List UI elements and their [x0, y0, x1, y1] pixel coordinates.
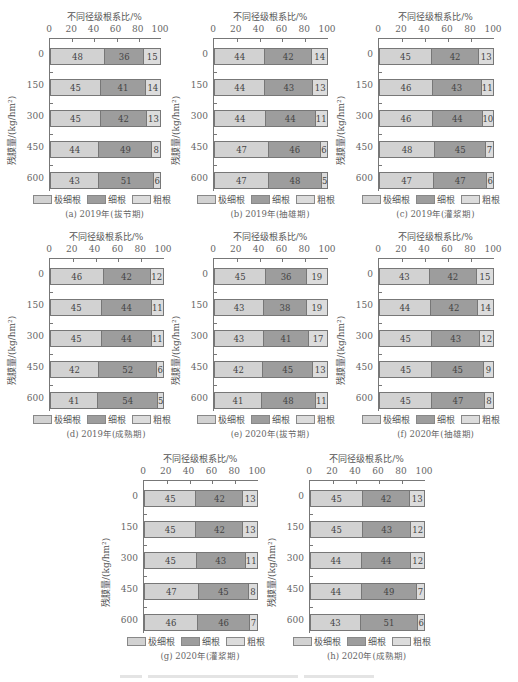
legend-swatch-fine [87, 195, 106, 204]
bar-segment-coarse: 5 [157, 393, 163, 408]
bar-segment-coarse: 13 [146, 111, 160, 126]
bar-segment-coarse: 12 [150, 269, 163, 284]
y-category-label: 300 [347, 331, 373, 341]
bar-segment-fine: 49 [361, 584, 416, 599]
legend-swatch-fine [181, 637, 200, 646]
y-category-label: 600 [347, 173, 373, 183]
bar-segment-ultrafine: 47 [215, 173, 268, 188]
y-tick-mark [379, 385, 382, 386]
bar-segment-fine: 51 [360, 615, 418, 630]
y-tick-mark [310, 545, 313, 546]
x-tick-mark [402, 259, 403, 262]
plot-area: 4642124544114544114252641545 [49, 258, 164, 411]
y-category-label: 150 [112, 522, 138, 532]
panel-caption: (h) 2020年(成熟期) [279, 649, 454, 661]
x-axis-title: 不同径级根系比/% [203, 10, 337, 23]
legend-swatch-coarse [392, 637, 411, 646]
y-axis-title: 残膜量/(kg/hm²) [5, 96, 18, 165]
x-tick-label: 80 [464, 24, 475, 34]
y-category-label: 450 [347, 362, 373, 372]
stacked-bar: 45459 [379, 361, 494, 378]
bar-segment-ultrafine: 44 [215, 111, 265, 126]
bar-segment-ultrafine: 46 [380, 80, 432, 95]
bar-segment-ultrafine: 44 [215, 49, 264, 64]
stacked-bar: 414811 [214, 392, 328, 409]
stacked-bar: 46467 [144, 614, 258, 631]
y-category-label: 0 [112, 491, 138, 501]
x-tick-mark [282, 259, 283, 262]
bar-segment-fine: 48 [261, 393, 315, 408]
x-tick-label: 40 [183, 466, 194, 476]
legend-label-fine: 细根 [368, 635, 386, 648]
x-tick-mark [471, 39, 472, 42]
x-axis-title: 不同径级根系比/% [39, 230, 173, 243]
bar-segment-fine: 42 [431, 49, 478, 64]
legend-label-fine: 细根 [272, 413, 290, 426]
y-category-label: 600 [18, 173, 44, 183]
y-tick-mark [50, 385, 53, 386]
x-tick-label: 0 [306, 466, 312, 476]
panel-caption: (e) 2020年(拔节期) [183, 427, 357, 439]
x-tick-label: 100 [484, 244, 501, 254]
y-tick-mark [50, 72, 53, 73]
legend-label-coarse: 粗根 [482, 193, 500, 206]
y-category-label: 150 [182, 80, 208, 90]
legend-swatch-fine [251, 195, 270, 204]
bar-segment-fine: 43 [264, 80, 312, 95]
bar-segment-coarse: 8 [151, 142, 160, 157]
stacked-bar: 47476 [379, 172, 494, 189]
y-category-label: 300 [18, 331, 44, 341]
bar-segment-fine: 44 [101, 300, 150, 315]
y-tick-mark [50, 292, 53, 293]
bar-segment-ultrafine: 46 [145, 615, 197, 630]
bar-segment-fine: 42 [430, 300, 477, 315]
bar-segment-fine: 54 [97, 393, 157, 408]
bar-segment-ultrafine: 42 [215, 362, 262, 377]
figure-caption-faint [120, 663, 410, 667]
stacked-bar: 44497 [310, 583, 425, 600]
y-tick-mark [50, 165, 53, 166]
stacked-bar: 433819 [214, 299, 328, 316]
x-tick-mark [139, 39, 140, 42]
bar-segment-ultrafine: 41 [51, 393, 97, 408]
x-tick-mark [237, 259, 238, 262]
y-tick-mark [144, 576, 147, 577]
x-tick-label: 60 [441, 24, 452, 34]
y-category-label: 450 [18, 142, 44, 152]
y-category-label: 300 [278, 553, 304, 563]
legend-label-fine: 细根 [108, 413, 126, 426]
legend-swatch-coarse [226, 637, 245, 646]
y-tick-mark [379, 72, 382, 73]
y-tick-mark [379, 134, 382, 135]
x-tick-mark [72, 39, 73, 42]
x-axis-title: 不同径级根系比/% [203, 230, 337, 243]
x-tick-label: 60 [372, 466, 383, 476]
y-tick-mark [310, 576, 313, 577]
x-tick-label: 100 [151, 24, 168, 34]
y-tick-mark [50, 354, 53, 355]
plot-area: 4442144443134444114746647485 [213, 38, 328, 191]
legend-label-ultrafine: 极细根 [218, 413, 245, 426]
legend: 极细根细根粗根 [191, 413, 335, 426]
y-tick-mark [214, 323, 217, 324]
bar-segment-fine: 44 [432, 111, 482, 126]
bar-segment-ultrafine: 45 [51, 300, 101, 315]
legend: 极细根细根粗根 [27, 193, 171, 206]
bar-segment-ultrafine: 44 [311, 584, 361, 599]
x-tick-label: 60 [110, 24, 121, 34]
x-tick-mark [212, 481, 213, 484]
legend-swatch-coarse [296, 195, 315, 204]
y-tick-mark [310, 514, 313, 515]
x-axis-ticks: 020406080100 [49, 244, 163, 256]
stacked-bar: 454213 [50, 110, 161, 127]
bar-segment-fine: 43 [431, 331, 480, 346]
legend-swatch-ultrafine [362, 415, 381, 424]
stacked-bar: 444214 [379, 299, 494, 316]
bar-segment-fine: 44 [265, 111, 315, 126]
bar-segment-fine: 46 [268, 142, 320, 157]
x-tick-label: 40 [349, 466, 360, 476]
x-axis-ticks: 020406080100 [309, 466, 424, 478]
bar-segment-coarse: 11 [315, 111, 327, 126]
bar-segment-ultrafine: 44 [380, 300, 430, 315]
bar-segment-coarse: 13 [242, 491, 257, 506]
